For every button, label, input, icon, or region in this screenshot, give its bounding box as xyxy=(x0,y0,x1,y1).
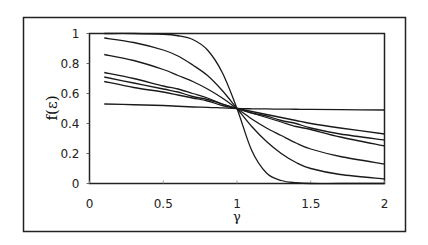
y-axis: 00.20.40.60.81 xyxy=(60,27,89,191)
y-axis-label: f(ε) xyxy=(43,95,61,120)
y-tick-label: 0.2 xyxy=(60,147,79,161)
y-tick-label: 0 xyxy=(72,177,80,191)
x-tick-label: 1.5 xyxy=(301,197,320,211)
x-tick-label: 0.5 xyxy=(154,197,173,211)
chart: 00.20.40.60.81 00.511.52 f(ε) γ xyxy=(0,0,428,245)
x-axis-label: γ xyxy=(233,209,241,224)
x-tick-label: 2 xyxy=(381,197,389,211)
y-tick-label: 0.4 xyxy=(60,117,79,131)
y-tick-label: 0.6 xyxy=(60,87,79,101)
y-tick-label: 0.8 xyxy=(60,57,79,71)
y-tick-label: 1 xyxy=(72,27,80,41)
x-axis: 00.511.52 xyxy=(86,181,389,212)
x-tick-label: 0 xyxy=(86,197,94,211)
